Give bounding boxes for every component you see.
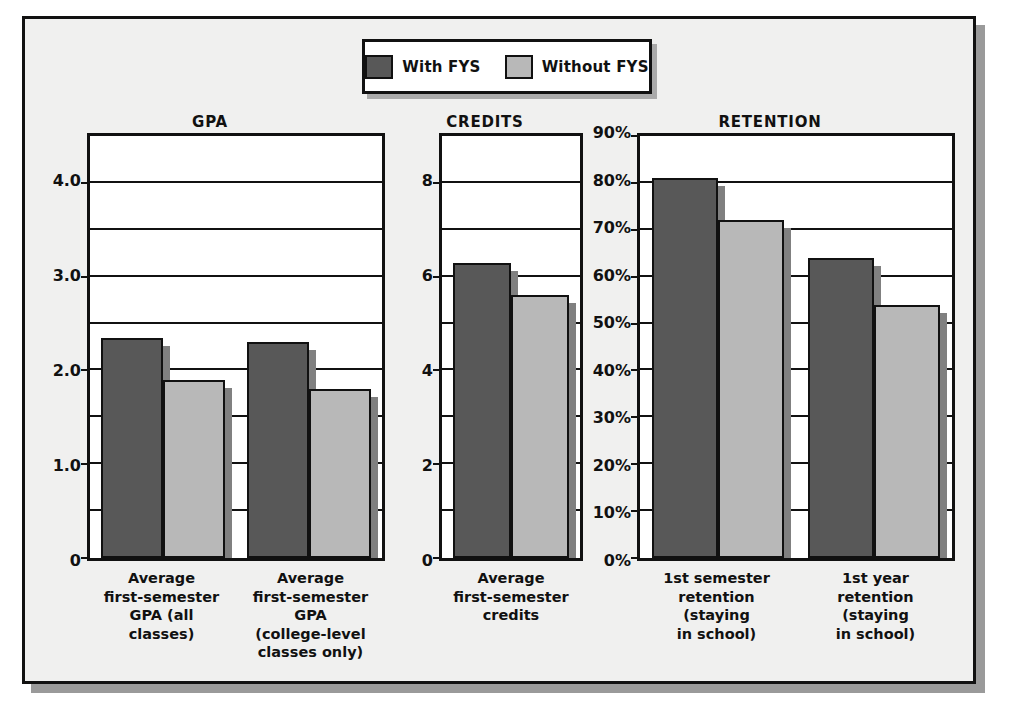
bar-with-fys[interactable] <box>652 178 718 558</box>
legend-label-without-fys: Without FYS <box>542 58 649 76</box>
panel-retention: RETENTION 0%10%20%30%40%50%60%70%80%90% … <box>585 111 955 643</box>
y-tick-mark <box>81 463 90 465</box>
figure-frame: With FYS Without FYS GPA 01.02.03.04.0 A… <box>22 16 976 684</box>
y-tick-mark <box>433 463 442 465</box>
category-list-retention: 1st semesterretention(stayingin school)1… <box>637 569 955 643</box>
panel-title-credits: CREDITS <box>387 111 583 133</box>
y-tick-label: 80% <box>593 171 631 190</box>
category-labels-gpa: Averagefirst-semesterGPA (allclasses)Ave… <box>35 569 385 662</box>
bar-groups-credits <box>442 136 580 558</box>
y-tick-label: 4 <box>422 361 433 380</box>
bar-group <box>796 136 952 558</box>
bar-wrapper <box>652 136 718 558</box>
y-tick-mark <box>631 276 640 278</box>
bar-wrapper <box>101 136 163 558</box>
y-tick-label: 0% <box>604 551 631 570</box>
y-tick-label: 20% <box>593 456 631 475</box>
category-spacer-retention <box>585 569 637 643</box>
bar-group <box>640 136 796 558</box>
panel-gpa: GPA 01.02.03.04.0 Averagefirst-semesterG… <box>35 111 385 662</box>
y-axis-credits: 02468 <box>387 133 439 561</box>
bar-group <box>90 136 236 558</box>
plot-area-gpa <box>87 133 385 561</box>
legend-swatch-with-fys <box>365 55 393 79</box>
plot-row-gpa: 01.02.03.04.0 <box>35 133 385 561</box>
panel-title-gpa: GPA <box>35 111 385 133</box>
y-tick-mark <box>81 182 90 184</box>
y-tick-mark <box>631 510 640 512</box>
y-tick-mark <box>631 135 640 137</box>
y-tick-mark <box>631 557 640 559</box>
y-tick-mark <box>81 276 90 278</box>
bar-groups-gpa <box>90 136 382 558</box>
legend-swatch-without-fys <box>505 55 533 79</box>
bar-wrapper <box>718 136 784 558</box>
panel-credits: CREDITS 02468 Averagefirst-semestercredi… <box>387 111 583 625</box>
y-tick-label: 60% <box>593 266 631 285</box>
y-tick-mark <box>631 323 640 325</box>
y-tick-label: 6 <box>422 266 433 285</box>
bar-group <box>236 136 382 558</box>
plot-row-credits: 02468 <box>387 133 583 561</box>
category-label: Averagefirst-semesterGPA(college-levelcl… <box>236 569 385 662</box>
category-spacer-gpa <box>35 569 87 662</box>
y-tick-mark <box>631 369 640 371</box>
bar-with-fys[interactable] <box>101 338 163 558</box>
bar-wrapper <box>874 136 940 558</box>
y-tick-mark <box>433 557 442 559</box>
category-labels-credits: Averagefirst-semestercredits <box>387 569 583 625</box>
y-tick-label: 30% <box>593 408 631 427</box>
y-tick-label: 8 <box>422 171 433 190</box>
plot-area-retention <box>637 133 955 561</box>
bar-wrapper <box>511 136 569 558</box>
y-tick-label: 3.0 <box>53 266 81 285</box>
y-tick-mark <box>433 182 442 184</box>
y-tick-mark <box>433 276 442 278</box>
category-label: Averagefirst-semesterGPA (allclasses) <box>87 569 236 662</box>
y-tick-mark <box>81 369 90 371</box>
bar-with-fys[interactable] <box>808 258 874 558</box>
y-tick-label: 4.0 <box>53 171 81 190</box>
category-labels-retention: 1st semesterretention(stayingin school)1… <box>585 569 955 643</box>
bar-wrapper <box>163 136 225 558</box>
bar-with-fys[interactable] <box>247 342 309 558</box>
bar-without-fys[interactable] <box>874 305 940 558</box>
bar-wrapper <box>247 136 309 558</box>
y-tick-label: 1.0 <box>53 456 81 475</box>
category-list-credits: Averagefirst-semestercredits <box>439 569 583 625</box>
legend-entry-without-fys: Without FYS <box>505 55 649 79</box>
y-tick-mark <box>631 229 640 231</box>
y-tick-label: 2 <box>422 456 433 475</box>
y-tick-mark <box>631 463 640 465</box>
bar-without-fys[interactable] <box>163 380 225 558</box>
bar-groups-retention <box>640 136 952 558</box>
category-label: 1st yearretention(stayingin school) <box>796 569 955 643</box>
y-tick-mark <box>631 182 640 184</box>
y-tick-label: 0 <box>422 551 433 570</box>
y-tick-label: 90% <box>593 123 631 142</box>
y-tick-label: 10% <box>593 503 631 522</box>
bar-without-fys[interactable] <box>511 295 569 558</box>
legend-label-with-fys: With FYS <box>402 58 480 76</box>
panel-title-retention: RETENTION <box>585 111 955 133</box>
category-label: 1st semesterretention(stayingin school) <box>637 569 796 643</box>
y-tick-label: 40% <box>593 361 631 380</box>
y-tick-label: 70% <box>593 218 631 237</box>
chart-panels: GPA 01.02.03.04.0 Averagefirst-semesterG… <box>25 111 973 671</box>
y-tick-label: 0 <box>70 551 81 570</box>
y-tick-label: 2.0 <box>53 361 81 380</box>
bar-wrapper <box>453 136 511 558</box>
bar-without-fys[interactable] <box>718 220 784 558</box>
y-axis-gpa: 01.02.03.04.0 <box>35 133 87 561</box>
bar-with-fys[interactable] <box>453 263 511 558</box>
y-tick-mark <box>631 416 640 418</box>
category-label: Averagefirst-semestercredits <box>439 569 583 625</box>
category-list-gpa: Averagefirst-semesterGPA (allclasses)Ave… <box>87 569 385 662</box>
chart-legend: With FYS Without FYS <box>362 39 652 94</box>
y-axis-retention: 0%10%20%30%40%50%60%70%80%90% <box>585 133 637 561</box>
plot-row-retention: 0%10%20%30%40%50%60%70%80%90% <box>585 133 955 561</box>
bar-without-fys[interactable] <box>309 389 371 558</box>
y-tick-mark <box>81 557 90 559</box>
y-tick-label: 50% <box>593 313 631 332</box>
category-spacer-credits <box>387 569 439 625</box>
